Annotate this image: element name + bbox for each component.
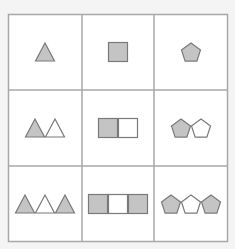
square-icon-white bbox=[119, 119, 138, 138]
grid-cell-r1-c2 bbox=[109, 43, 128, 62]
square-icon-gray bbox=[129, 195, 148, 214]
grid-cell-r3-c2 bbox=[89, 195, 148, 214]
square-icon-white bbox=[109, 195, 128, 214]
square-icon-gray bbox=[99, 119, 118, 138]
grid-cell-r3-c3 bbox=[161, 195, 220, 213]
shape-grid bbox=[0, 0, 235, 249]
puzzle-figure bbox=[0, 0, 235, 249]
grid-cell-r2-c2 bbox=[99, 119, 138, 138]
square-icon-gray bbox=[109, 43, 128, 62]
grid-cell-r3-c1 bbox=[16, 195, 75, 213]
square-icon-gray bbox=[89, 195, 108, 214]
